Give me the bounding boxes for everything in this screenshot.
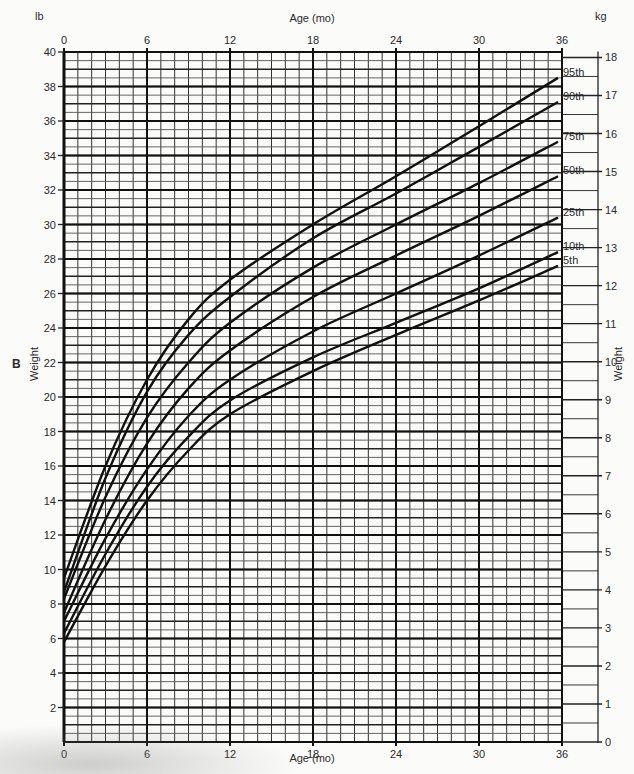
kg-tick-label: 3 xyxy=(605,622,611,634)
percentile-label-25th: 25th xyxy=(563,206,584,218)
lb-tick-label: 34 xyxy=(44,150,56,162)
lb-tick-label: 40 xyxy=(44,46,56,58)
kg-tick-label: 18 xyxy=(605,51,617,63)
lb-tick-label: 18 xyxy=(44,426,56,438)
top-age-tick-label: 24 xyxy=(390,34,402,46)
percentile-curve-5th xyxy=(64,266,558,642)
lb-tick-label: 12 xyxy=(44,529,56,541)
lb-tick-label: 14 xyxy=(44,495,56,507)
top-age-tick-label: 36 xyxy=(556,34,568,46)
top-age-tick-label: 12 xyxy=(224,34,236,46)
lb-tick-label: 32 xyxy=(44,184,56,196)
kg-tick-label: 1 xyxy=(605,698,611,710)
kg-tick-label: 6 xyxy=(605,508,611,520)
left-axis-title: Weight xyxy=(28,347,40,381)
percentile-label-75th: 75th xyxy=(563,130,584,142)
top-age-tick-label: 6 xyxy=(144,34,150,46)
kg-tick-label: 5 xyxy=(605,546,611,558)
kg-tick-label: 17 xyxy=(605,89,617,101)
kg-tick-label: 11 xyxy=(605,318,616,330)
bottom-age-tick-label: 24 xyxy=(390,748,402,760)
kg-tick-label: 4 xyxy=(605,584,611,596)
kg-tick-label: 15 xyxy=(605,166,617,178)
percentile-label-5th: 5th xyxy=(563,254,578,266)
panel-label: B xyxy=(12,357,21,371)
percentile-labels: 95th90th75th50th25th10th5th xyxy=(563,66,584,266)
right-axis-title: Weight xyxy=(612,347,624,381)
percentile-label-95th: 95th xyxy=(563,66,584,78)
lb-tick-label: 4 xyxy=(50,667,56,679)
lb-tick-label: 38 xyxy=(44,81,56,93)
lb-tick-label: 28 xyxy=(44,253,56,265)
lb-axis-ticks: 246810121416182022242628303234363840 xyxy=(44,46,64,714)
kg-tick-label: 12 xyxy=(605,280,617,292)
lb-tick-label: 2 xyxy=(50,702,56,714)
percentile-label-10th: 10th xyxy=(563,240,584,252)
bottom-age-tick-label: 30 xyxy=(473,748,485,760)
lb-tick-label: 20 xyxy=(44,391,56,403)
kg-unit-label: kg xyxy=(595,10,607,22)
scan-smudge xyxy=(0,724,300,774)
kg-tick-label: 9 xyxy=(605,394,611,406)
percentile-label-50th: 50th xyxy=(563,164,584,176)
lb-unit-label: lb xyxy=(35,10,44,22)
lb-tick-label: 26 xyxy=(44,288,56,300)
top-age-axis-ticks: 061218243036 xyxy=(61,34,568,46)
bottom-age-tick-label: 36 xyxy=(556,748,568,760)
lb-tick-label: 30 xyxy=(44,219,56,231)
kg-tick-label: 14 xyxy=(605,204,617,216)
lb-tick-label: 10 xyxy=(44,564,56,576)
kg-tick-label: 0 xyxy=(605,736,611,748)
kg-scale-column: 0123456789101112131415161718 xyxy=(562,51,617,748)
top-age-tick-label: 30 xyxy=(473,34,485,46)
percentile-label-90th: 90th xyxy=(563,90,584,102)
percentile-curve-75th xyxy=(64,142,558,599)
top-age-tick-label: 0 xyxy=(61,34,67,46)
percentile-curve-10th xyxy=(64,252,558,633)
lb-tick-label: 8 xyxy=(50,598,56,610)
kg-tick-label: 2 xyxy=(605,660,611,672)
lb-tick-label: 24 xyxy=(44,322,56,334)
growth-chart: 0123456789101112131415161718 95th90th75t… xyxy=(0,0,634,774)
kg-tick-label: 13 xyxy=(605,242,617,254)
lb-tick-label: 6 xyxy=(50,633,56,645)
top-age-tick-label: 18 xyxy=(307,34,319,46)
percentile-curves xyxy=(64,78,558,642)
lb-tick-label: 36 xyxy=(44,115,56,127)
kg-tick-label: 7 xyxy=(605,470,611,482)
lb-tick-label: 16 xyxy=(44,460,56,472)
kg-tick-label: 8 xyxy=(605,432,611,444)
lb-tick-label: 22 xyxy=(44,357,56,369)
kg-tick-label: 16 xyxy=(605,128,617,140)
top-axis-title: Age (mo) xyxy=(289,12,334,24)
